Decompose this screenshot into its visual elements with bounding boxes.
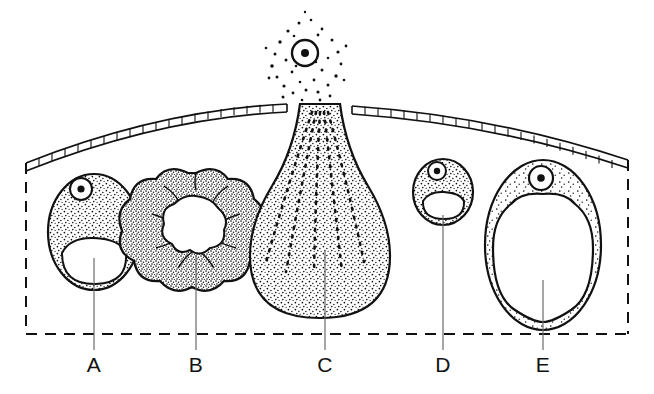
- cell-e-label: E: [536, 353, 551, 376]
- cell-b[interactable]: B: [119, 169, 264, 376]
- cell-d-vacuole: [423, 192, 464, 219]
- cell-a-label: A: [87, 353, 102, 376]
- cell-c-label: C: [317, 353, 333, 376]
- cell-e-nucleus: [529, 166, 553, 190]
- cell-c-nucleus: [292, 40, 318, 66]
- cell-a-nucleus: [70, 178, 92, 200]
- cell-d-nucleus: [428, 162, 446, 180]
- cell-d[interactable]: D: [413, 159, 473, 376]
- figure-canvas: A B: [0, 0, 654, 394]
- cell-c-membrane: [250, 104, 390, 318]
- cell-b-label: B: [189, 353, 204, 376]
- cell-d-contents: [423, 192, 464, 219]
- cell-b-lumen: [162, 196, 226, 254]
- cell-diagram: A B: [0, 0, 654, 394]
- cell-d-label: D: [435, 353, 451, 376]
- cell-c[interactable]: C: [250, 11, 390, 376]
- cell-e[interactable]: E: [485, 160, 601, 376]
